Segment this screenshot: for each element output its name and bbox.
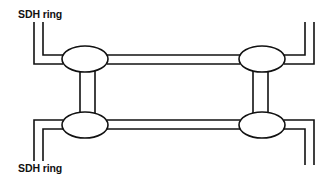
bottom-horizontal-link	[107, 120, 240, 129]
top-horizontal-link	[107, 55, 240, 64]
bottom-right-ring-stub	[282, 120, 314, 165]
left-vertical-link	[80, 71, 95, 113]
top-left-ring-stub	[34, 22, 65, 64]
node-bottom-right	[239, 112, 285, 138]
right-vertical-link	[253, 71, 268, 113]
top-right-ring-stub	[282, 22, 314, 64]
bottom-left-ring-stub	[34, 120, 65, 161]
node-bottom-left	[62, 112, 108, 138]
node-top-left	[62, 46, 108, 72]
node-top-right	[239, 46, 285, 72]
sdh-ring-interconnection-diagram	[0, 0, 334, 184]
